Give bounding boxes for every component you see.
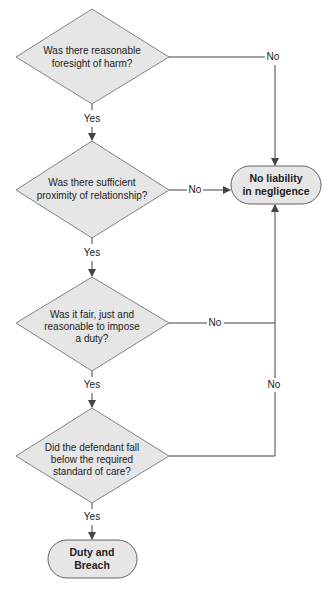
q4-yes-label: Yes bbox=[84, 511, 100, 522]
flowchart: Was there reasonable foresight of harm? … bbox=[0, 0, 333, 593]
q2-line-2: proximity of relationship? bbox=[37, 190, 148, 201]
connector-q4-no: No bbox=[169, 205, 281, 456]
q1-line-1: Was there reasonable bbox=[43, 45, 141, 56]
q4-no-label: No bbox=[268, 379, 281, 390]
q3-line-3: a duty? bbox=[76, 333, 109, 344]
connector-q3-no: No bbox=[169, 317, 275, 328]
connector-q4-yes: Yes bbox=[84, 503, 100, 539]
decision-foresight: Was there reasonable foresight of harm? bbox=[16, 9, 169, 104]
q4-line-3: standard of care? bbox=[53, 466, 131, 477]
q2-no-label: No bbox=[189, 184, 202, 195]
decision-standard-of-care: Did the defendant fall below the require… bbox=[16, 408, 169, 503]
no-liability-line-2: in negligence bbox=[242, 185, 309, 197]
decision-fair-just-reasonable: Was it fair, just and reasonable to impo… bbox=[16, 277, 169, 371]
duty-breach-line-1: Duty and bbox=[70, 546, 115, 558]
q1-yes-label: Yes bbox=[84, 113, 100, 124]
connector-q1-yes: Yes bbox=[84, 104, 100, 140]
q1-line-2: foresight of harm? bbox=[52, 58, 133, 69]
terminal-duty-and-breach: Duty and Breach bbox=[48, 540, 137, 578]
no-liability-line-1: No liability bbox=[249, 172, 302, 184]
terminal-no-liability: No liability in negligence bbox=[231, 166, 321, 204]
q3-no-label: No bbox=[209, 317, 222, 328]
connector-q3-yes: Yes bbox=[84, 371, 100, 407]
q4-line-1: Did the defendant fall bbox=[45, 442, 140, 453]
q2-line-1: Was there sufficient bbox=[48, 177, 135, 188]
connector-q2-yes: Yes bbox=[84, 238, 100, 276]
q4-line-2: below the required bbox=[51, 454, 133, 465]
connector-q2-no: No bbox=[169, 184, 230, 195]
q3-yes-label: Yes bbox=[84, 379, 100, 390]
connector-q1-no: No bbox=[169, 51, 280, 165]
q3-line-2: reasonable to impose bbox=[44, 321, 140, 332]
q1-no-label: No bbox=[267, 51, 280, 62]
decision-proximity: Was there sufficient proximity of relati… bbox=[16, 141, 169, 238]
duty-breach-line-2: Breach bbox=[74, 559, 110, 571]
q2-yes-label: Yes bbox=[84, 247, 100, 258]
q3-line-1: Was it fair, just and bbox=[50, 309, 134, 320]
